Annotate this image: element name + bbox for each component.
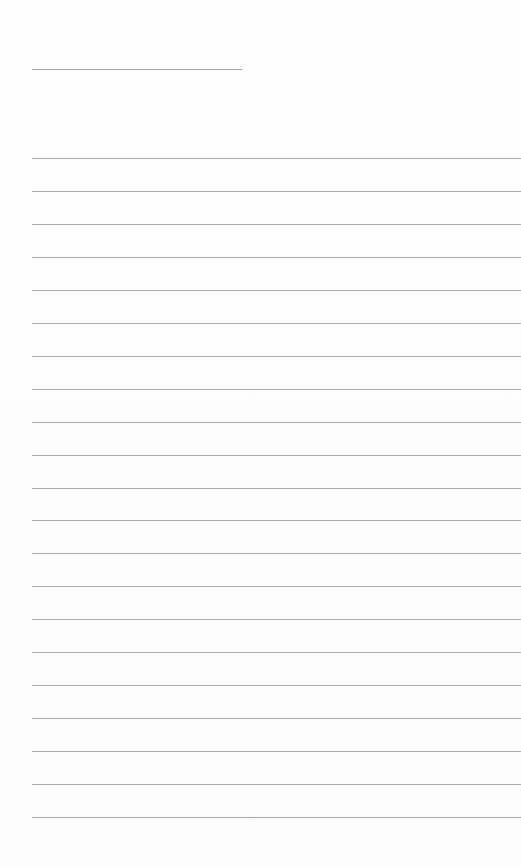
ruled-line: [32, 224, 521, 225]
ruled-line: [32, 652, 521, 653]
ruled-line: [32, 158, 521, 159]
ruled-line: [32, 784, 521, 785]
ruled-line: [32, 520, 521, 521]
ruled-line: [32, 290, 521, 291]
ruled-line: [32, 586, 521, 587]
ruled-line: [32, 455, 521, 456]
ruled-line: [32, 422, 521, 423]
ruled-line: [32, 488, 521, 489]
ruled-line: [32, 257, 521, 258]
ruled-line: [32, 389, 521, 390]
ruled-line: [32, 553, 521, 554]
ruled-line: [32, 191, 521, 192]
title-underline: [32, 69, 242, 70]
ruled-line: [32, 817, 521, 818]
ruled-line: [32, 323, 521, 324]
ruled-line: [32, 751, 521, 752]
lined-paper-page: [0, 0, 521, 867]
ruled-line: [32, 685, 521, 686]
ruled-line: [32, 718, 521, 719]
ruled-line: [32, 619, 521, 620]
ruled-line: [32, 356, 521, 357]
